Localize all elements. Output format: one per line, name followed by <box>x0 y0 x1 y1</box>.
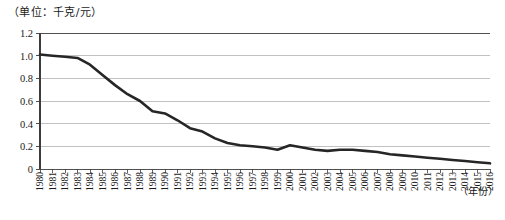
x-tick-label: 1982 <box>60 172 70 191</box>
y-tick-label: 0.2 <box>20 141 33 152</box>
x-tick-label: 1999 <box>273 172 283 191</box>
x-tick-label: 1998 <box>260 172 270 191</box>
x-tick-label: 2001 <box>298 172 308 191</box>
unit-label: （单位：千克/元） <box>8 3 102 19</box>
y-tick-label: 0.6 <box>20 96 33 107</box>
x-tick-label: 1986 <box>110 172 120 191</box>
x-tick-label: 1989 <box>148 172 158 191</box>
y-tick-label: 0.8 <box>20 73 33 84</box>
x-tick-label: 2000 <box>285 172 295 191</box>
x-tick-label: 1983 <box>73 172 83 191</box>
x-tick-label: 1985 <box>98 172 108 191</box>
x-tick-label: 1996 <box>235 172 245 191</box>
x-axis-tick-labels: 1980198119821983198419851986198719881989… <box>40 172 490 216</box>
x-tick-label: 2005 <box>348 172 358 191</box>
x-tick-label: 1988 <box>135 172 145 191</box>
y-tick-label: 0.4 <box>20 118 33 129</box>
x-tick-label: 1997 <box>248 172 258 191</box>
x-tick-label: 1981 <box>48 172 58 191</box>
y-axis-tick-labels: 1.21.00.80.60.40.20 <box>0 33 36 169</box>
x-tick-label: 2007 <box>373 172 383 191</box>
chart-canvas <box>40 33 490 169</box>
series-line <box>40 55 490 164</box>
x-tick-label: 2003 <box>323 172 333 191</box>
y-tick-label: 0 <box>28 164 33 175</box>
x-tick-label: 2009 <box>398 172 408 191</box>
x-tick-label: 2013 <box>448 172 458 191</box>
x-tick-label: 1987 <box>123 172 133 191</box>
plot-area <box>40 33 490 169</box>
x-tick-label: 2011 <box>423 172 433 191</box>
x-axis-title: （年份） <box>458 183 498 198</box>
x-tick-label: 2012 <box>435 172 445 191</box>
x-tick-label: 1994 <box>210 172 220 191</box>
x-tick-label: 2006 <box>360 172 370 191</box>
y-tick-label: 1.0 <box>20 50 33 61</box>
y-tick-label: 1.2 <box>20 28 33 39</box>
x-tick-label: 1980 <box>35 172 45 191</box>
chart-figure: （单位：千克/元） 1.21.00.80.60.40.20 1980198119… <box>0 0 505 220</box>
x-tick-label: 1984 <box>85 172 95 191</box>
x-tick-label: 2002 <box>310 172 320 191</box>
x-tick-label: 2004 <box>335 172 345 191</box>
x-tick-label: 1993 <box>198 172 208 191</box>
x-tick-label: 1991 <box>173 172 183 191</box>
x-tick-label: 1992 <box>185 172 195 191</box>
x-tick-label: 1995 <box>223 172 233 191</box>
x-tick-label: 1990 <box>160 172 170 191</box>
x-tick-label: 2008 <box>385 172 395 191</box>
x-tick-label: 2010 <box>410 172 420 191</box>
